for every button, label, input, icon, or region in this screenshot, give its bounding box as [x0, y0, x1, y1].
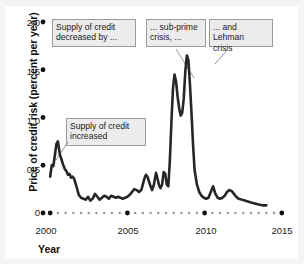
x-minor-tick-dot-2008	[172, 212, 175, 215]
data-series-price-of-credit-risk	[50, 55, 266, 205]
x-minor-tick-dot-2002	[80, 212, 83, 215]
chart-figure: Price of credit risk (percent per year) …	[0, 0, 304, 264]
x-minor-tick-dot-2001	[64, 212, 67, 215]
x-minor-tick-dot-2006	[142, 212, 145, 215]
x-minor-tick-dot-2004.5	[118, 212, 121, 215]
chart-plot-area	[0, 0, 304, 264]
x-minor-tick-dot-2009.5	[196, 212, 199, 215]
x-minor-tick-dot-2013	[250, 212, 253, 215]
x-minor-tick-dot-2008.5	[180, 212, 183, 215]
x-minor-tick-dot-2013.5	[257, 212, 260, 215]
x-tick-dot-2010	[202, 211, 207, 216]
x-tick-dot-2005	[125, 211, 130, 216]
y-tick-dot-2	[41, 20, 46, 25]
x-minor-tick-dot-2005.5	[134, 212, 137, 215]
x-tick-marks-minor	[57, 212, 276, 215]
y-tick-marks	[41, 20, 46, 216]
x-minor-tick-dot-2009	[188, 212, 191, 215]
y-tick-dot-0	[41, 211, 46, 216]
x-minor-tick-dot-2012.5	[242, 212, 245, 215]
x-minor-tick-dot-2001.5	[72, 212, 75, 215]
x-minor-tick-dot-2007	[157, 212, 160, 215]
x-minor-tick-dot-2000.5	[57, 212, 60, 215]
x-minor-tick-dot-2011.5	[226, 212, 229, 215]
x-tick-dot-2015	[279, 211, 284, 216]
x-tick-dot-2000	[48, 211, 53, 216]
x-minor-tick-dot-2012	[234, 212, 237, 215]
x-minor-tick-dot-2002.5	[87, 212, 90, 215]
y-tick-dot-1	[41, 115, 46, 120]
x-minor-tick-dot-2006.5	[149, 212, 152, 215]
x-minor-tick-dot-2011	[219, 212, 222, 215]
x-minor-tick-dot-2003	[95, 212, 98, 215]
x-minor-tick-dot-2014.5	[273, 212, 276, 215]
leader-line-lehman	[215, 49, 228, 64]
x-minor-tick-dot-2010.5	[211, 212, 214, 215]
x-minor-tick-dot-2014	[265, 212, 268, 215]
x-minor-tick-dot-2007.5	[165, 212, 168, 215]
x-minor-tick-dot-2003.5	[103, 212, 106, 215]
x-minor-tick-dot-2004	[111, 212, 114, 215]
annotation-leader-lines	[56, 49, 228, 160]
y-tick-dot-0.5	[41, 163, 46, 168]
y-tick-dot-1.5	[41, 67, 46, 72]
